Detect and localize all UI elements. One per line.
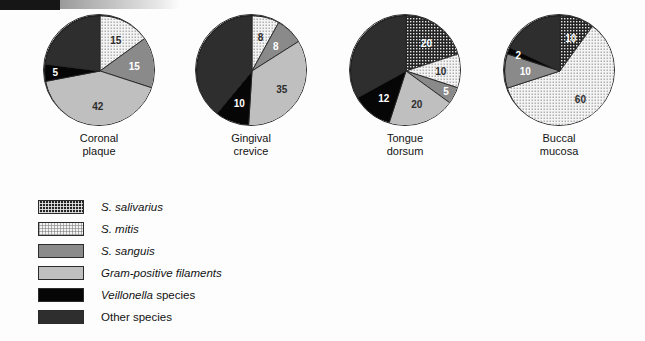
- pie-caption-line: Tongue: [330, 132, 480, 145]
- legend-item-2: S. sanguis: [38, 240, 338, 262]
- legend-swatch-icon: [38, 288, 84, 302]
- pie-caption: Tonguedorsum: [330, 132, 480, 157]
- pie-caption: Gingivalcrevice: [176, 132, 326, 157]
- pie-svg: [44, 15, 155, 126]
- legend-item-label: Other species: [101, 311, 172, 323]
- pie-graphic: 1515425: [43, 14, 155, 126]
- pie-graphic: 883510: [195, 14, 307, 126]
- page-bleed-text: [60, 331, 620, 339]
- pie-svg: [504, 15, 615, 126]
- pie-caption-line: Buccal: [484, 132, 634, 145]
- pie-chart-1: 1515425Coronalplaque: [24, 14, 174, 157]
- pie-chart-2: 883510Gingivalcrevice: [176, 14, 326, 157]
- legend-swatch-icon: [38, 244, 84, 258]
- legend-label-italic: S. mitis: [101, 223, 139, 235]
- legend-item-3: Gram-positive filaments: [38, 262, 338, 284]
- pie-caption-line: mucosa: [484, 145, 634, 158]
- legend-swatch-icon: [38, 222, 84, 236]
- legend-item-4: Veillonella species: [38, 284, 338, 306]
- pie-caption-line: crevice: [176, 145, 326, 158]
- pie-caption: Coronalplaque: [24, 132, 174, 157]
- pie-graphic: 1060102: [503, 14, 615, 126]
- legend-swatch-icon: [38, 200, 84, 214]
- legend-item-label: S. salivarius: [101, 201, 163, 213]
- pie-caption-line: plaque: [24, 145, 174, 158]
- pie-caption: Buccalmucosa: [484, 132, 634, 157]
- pie-svg: [196, 15, 307, 126]
- scan-artifact-block: [0, 0, 60, 10]
- legend-swatch-icon: [38, 310, 84, 324]
- legend-label-italic: S. sanguis: [101, 245, 155, 257]
- legend-label-plain: species: [153, 289, 195, 301]
- legend-swatch-icon: [38, 266, 84, 280]
- pie-chart-3: 201052012Tonguedorsum: [330, 14, 480, 157]
- pie-svg: [350, 15, 461, 126]
- legend-item-label: Veillonella species: [101, 289, 195, 301]
- legend-item-label: Gram-positive filaments: [101, 267, 222, 279]
- legend-item-label: S. mitis: [101, 223, 139, 235]
- pie-graphic: 201052012: [349, 14, 461, 126]
- pie-chart-4: 1060102Buccalmucosa: [484, 14, 634, 157]
- pie-chart-row: 1515425Coronalplaque 883510Gingivalcrevi…: [0, 14, 645, 154]
- pie-caption-line: Coronal: [24, 132, 174, 145]
- legend-label-italic: Veillonella: [101, 289, 153, 301]
- pie-caption-line: dorsum: [330, 145, 480, 158]
- legend-item-5: Other species: [38, 306, 338, 328]
- legend-item-0: S. salivarius: [38, 196, 338, 218]
- legend: S. salivariusS. mitisS. sanguisGram-posi…: [38, 196, 338, 328]
- pie-caption-line: Gingival: [176, 132, 326, 145]
- legend-label-italic: Gram-positive filaments: [101, 267, 222, 279]
- legend-label-plain: Other species: [101, 311, 172, 323]
- legend-item-label: S. sanguis: [101, 245, 155, 257]
- legend-label-italic: S. salivarius: [101, 201, 163, 213]
- legend-item-1: S. mitis: [38, 218, 338, 240]
- pie-slice-5: [45, 16, 100, 72]
